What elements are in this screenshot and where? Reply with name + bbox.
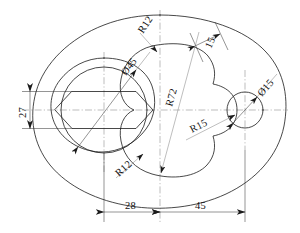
dim-label-r12-top: R12 [136,14,155,35]
outer-oval-contour [33,15,286,208]
dim-label-r15: R15 [188,117,209,135]
hex-recess-boss [51,58,155,152]
dim-label-15: 15 [203,35,217,49]
dimension-r72: R72 [161,32,199,173]
technical-drawing-svg: Ø45 R12 15 Ø15 R72 R15 R12 27 [0,0,300,233]
dimension-r12-top: R12 [136,14,157,52]
dimension-dia15: Ø15 [233,74,277,123]
dimension-15: 15 [190,22,228,62]
drawing-canvas: Ø45 R12 15 Ø15 R72 R15 R12 27 [0,0,300,233]
dim-label-27: 27 [17,107,28,118]
dimension-dia45: Ø45 [78,52,150,147]
dim-label-r72: R72 [163,87,179,107]
dim-label-dia15: Ø15 [255,77,276,98]
dimension-45: 45 [160,150,245,222]
centerlines [22,10,288,222]
dim-label-28: 28 [125,200,136,211]
dim-label-45: 45 [195,200,206,211]
dimension-r15: R15 [186,115,235,140]
